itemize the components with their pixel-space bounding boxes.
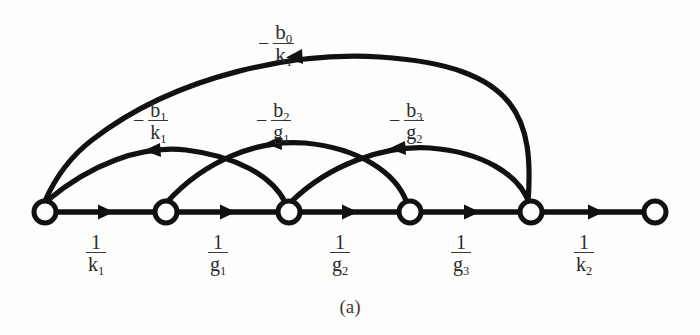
numerator-b1-base: b	[150, 99, 160, 121]
denominator-g2-sub: 2	[416, 132, 422, 146]
fraction-1-g1: 1g1	[208, 232, 228, 274]
signal-flow-graph-canvas	[0, 0, 700, 335]
minus-sign-b0: −	[258, 33, 269, 53]
gain-label-1-over-g1: 1g1	[208, 232, 228, 274]
denominator-k1b-base: k	[150, 121, 160, 143]
signal-flow-graph-figure: −b0k1 −b1k1 −b2g1 −b3g2 1k1 1g1 1g2 1g3 …	[0, 0, 700, 335]
gain-label-b3-over-g2: −b3g2	[389, 100, 424, 142]
arrowhead-n5-n6	[588, 205, 604, 220]
denominator-g2-base: g	[406, 121, 416, 143]
gain-label-1-over-k1: 1k1	[86, 232, 106, 274]
fraction-b0-k1: b0k1	[273, 22, 294, 66]
node-6[interactable]	[644, 201, 666, 223]
denominator-k1-base: k	[275, 43, 286, 67]
node-1[interactable]	[34, 201, 56, 223]
numerator-one-1: 1	[86, 232, 106, 253]
node-2[interactable]	[155, 201, 177, 223]
fraction-b2-g1: b2g1	[271, 100, 291, 142]
arrowhead-n1-n2	[98, 205, 114, 220]
fraction-1-g3: 1g3	[451, 232, 471, 274]
denominator-k1-sub: 1	[286, 54, 293, 69]
fraction-b1-k1: b1k1	[148, 100, 168, 142]
numerator-b0: b0	[273, 22, 294, 44]
denominator-g1b-sub: 1	[220, 264, 226, 278]
denominator-g1b: g1	[208, 253, 228, 274]
denominator-g3-base: g	[453, 253, 463, 275]
denominator-k1b: k1	[148, 121, 168, 142]
denominator-g1-base: g	[273, 121, 283, 143]
gain-label-1-over-g2: 1g2	[330, 232, 350, 274]
gain-label-1-over-k2: 1k2	[574, 232, 594, 274]
numerator-b3-sub: 3	[416, 110, 422, 124]
denominator-k2-sub: 2	[586, 264, 592, 278]
numerator-one-2: 1	[208, 232, 228, 253]
denominator-g1b-base: g	[210, 253, 220, 275]
arrowhead-n4-n5	[464, 205, 480, 220]
feedback-arc-b1	[48, 149, 285, 202]
gain-label-b2-over-g1: −b2g1	[256, 100, 291, 142]
numerator-b0-base: b	[275, 20, 286, 44]
numerator-b1: b1	[148, 100, 168, 121]
gain-label-b0-over-k1: −b0k1	[258, 22, 294, 66]
node-5[interactable]	[520, 201, 542, 223]
denominator-g1: g1	[271, 121, 291, 142]
numerator-b0-sub: 0	[286, 31, 293, 46]
node-4[interactable]	[399, 201, 421, 223]
numerator-one-4: 1	[451, 232, 471, 253]
denominator-g1-sub: 1	[283, 132, 289, 146]
numerator-b3-base: b	[406, 99, 416, 121]
fraction-b3-g2: b3g2	[404, 100, 424, 142]
gain-label-1-over-g3: 1g3	[451, 232, 471, 274]
arrowhead-arc-b1	[144, 143, 161, 157]
minus-sign-b1: −	[133, 110, 144, 130]
denominator-g3-sub: 3	[463, 264, 469, 278]
minus-sign-b2: −	[256, 110, 267, 130]
denominator-g2b-base: g	[332, 253, 342, 275]
denominator-k1b-sub: 1	[160, 132, 166, 146]
numerator-b2-base: b	[273, 99, 283, 121]
node-3[interactable]	[278, 201, 300, 223]
arrowhead-n2-n3	[220, 205, 236, 220]
numerator-b2-sub: 2	[283, 110, 289, 124]
numerator-b3: b3	[404, 100, 424, 121]
feedback-arc-b3	[292, 148, 529, 203]
denominator-k1c-sub: 1	[98, 264, 104, 278]
figure-caption: (a)	[0, 296, 700, 318]
denominator-g2b-sub: 2	[342, 264, 348, 278]
gain-label-b1-over-k1: −b1k1	[133, 100, 168, 142]
denominator-g2b: g2	[330, 253, 350, 274]
numerator-one-5: 1	[574, 232, 594, 253]
denominator-k1c: k1	[86, 253, 106, 274]
denominator-k2-base: k	[576, 253, 586, 275]
fraction-1-g2: 1g2	[330, 232, 350, 274]
fraction-1-k2: 1k2	[574, 232, 594, 274]
arrowhead-n3-n4	[342, 205, 358, 220]
denominator-k1c-base: k	[88, 253, 98, 275]
denominator-g3: g3	[451, 253, 471, 274]
denominator-g2: g2	[404, 121, 424, 142]
numerator-one-3: 1	[330, 232, 350, 253]
denominator-k2: k2	[574, 253, 594, 274]
denominator-k1: k1	[273, 44, 294, 66]
fraction-1-k1: 1k1	[86, 232, 106, 274]
minus-sign-b3: −	[389, 110, 400, 130]
numerator-b2: b2	[271, 100, 291, 121]
numerator-b1-sub: 1	[160, 110, 166, 124]
